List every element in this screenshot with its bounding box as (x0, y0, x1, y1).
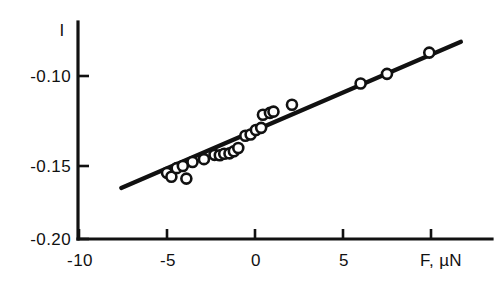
x-axis-title: F, µN (420, 251, 462, 270)
y-tick-label-2: -0.10 (30, 67, 71, 86)
x-tick-label-2: 0 (251, 251, 261, 270)
data-point-marker (287, 100, 297, 110)
x-tick-label-1: -5 (160, 251, 176, 270)
data-point-marker (382, 69, 392, 79)
data-point-marker (268, 107, 278, 117)
y-tick-marks (78, 76, 89, 239)
y-tick-label-0: -0.20 (30, 230, 71, 249)
figure-container: -0.20 -0.15 -0.10 -10 -5 0 5 I F, µN (0, 0, 503, 295)
data-point-marker (188, 157, 198, 167)
x-tick-label-3: 5 (339, 251, 349, 270)
scatter-plot: -0.20 -0.15 -0.10 -10 -5 0 5 I F, µN (0, 0, 503, 295)
y-axis-title: I (59, 21, 64, 40)
y-tick-label-1: -0.15 (30, 157, 71, 176)
data-point-marker (181, 174, 191, 184)
data-point-marker (233, 143, 243, 153)
data-point-marker (424, 48, 434, 58)
data-point-marker (256, 123, 266, 133)
data-point-marker (199, 154, 209, 164)
data-point-marker (356, 79, 366, 89)
x-tick-label-0: -10 (67, 251, 93, 270)
data-point-group (162, 48, 434, 184)
